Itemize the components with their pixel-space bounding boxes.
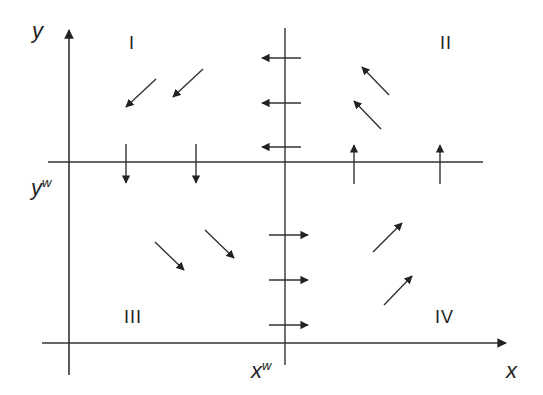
arrow-down-left-icon (126, 79, 156, 107)
isoclines (48, 28, 483, 365)
quadrant-label-ii: II (440, 33, 452, 54)
arrow-up-right-icon (373, 223, 402, 252)
quadrant-label-iii: III (124, 307, 142, 328)
arrow-up-right-icon (384, 276, 412, 305)
y-w-isocline-arrows (126, 144, 440, 184)
y-w-base: y (31, 175, 42, 200)
x-axis-label: x (506, 358, 517, 384)
arrow-down-right-icon (155, 242, 184, 270)
x-w-isocline-label: xw (251, 358, 271, 384)
quadrant-label-iv: IV (435, 307, 454, 328)
x-w-base: x (251, 358, 262, 383)
arrow-down-left-icon (173, 69, 203, 97)
y-w-isocline-label: yw (31, 175, 51, 201)
arrow-up-left-icon (362, 67, 389, 95)
arrow-up-left-icon (354, 101, 381, 129)
y-w-sup: w (42, 175, 51, 190)
arrow-down-right-icon (205, 230, 234, 258)
quadrant-label-i: I (129, 33, 135, 54)
y-axis-label: y (32, 18, 43, 44)
x-w-sup: w (262, 358, 271, 373)
phase-diagram (0, 0, 543, 395)
